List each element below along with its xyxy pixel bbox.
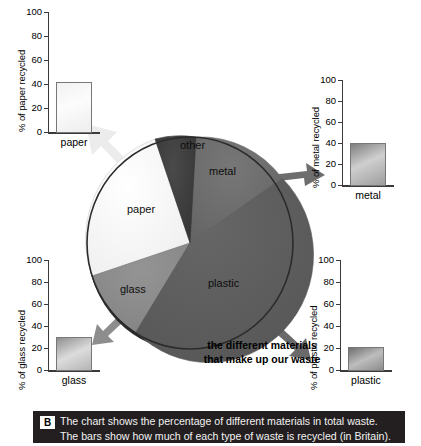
bar-chart-metal-category: metal	[342, 189, 394, 201]
pie-label-metal: metal	[209, 165, 236, 177]
ytick-100: 100	[18, 6, 42, 17]
ytick-80: 80	[312, 95, 336, 106]
ytick-80: 80	[310, 276, 334, 287]
bar-chart-paper-category: paper	[48, 136, 100, 148]
ytick-0: 0	[18, 364, 42, 375]
bar-paper	[56, 82, 92, 133]
figure-root: paper other metal plastic glass the diff…	[0, 0, 421, 446]
ytick-60: 60	[312, 116, 336, 127]
ytick-60: 60	[18, 298, 42, 309]
ytick-100: 100	[310, 254, 334, 265]
ytick-0: 0	[312, 179, 336, 190]
bar-chart-paper-yaxis	[48, 12, 49, 133]
bar-chart-plastic-category: plastic	[340, 374, 392, 386]
caption-text: The chart shows the percentage of differ…	[60, 413, 391, 443]
ytick-20: 20	[18, 102, 42, 113]
bar-chart-glass-category: glass	[48, 374, 100, 386]
bar-chart-paper: % of paper recycled 100 80 60 40 20 0 pa…	[0, 0, 150, 150]
caption-badge: B	[40, 416, 55, 429]
ytick-100: 100	[18, 254, 42, 265]
bar-glass	[56, 337, 92, 371]
bar-chart-metal-yaxis	[342, 80, 343, 186]
ytick-40: 40	[310, 320, 334, 331]
ytick-60: 60	[310, 298, 334, 309]
ytick-80: 80	[18, 276, 42, 287]
ytick-0: 0	[18, 126, 42, 137]
bar-chart-plastic: % of plastic recycled 100 80 60 40 20 0 …	[280, 248, 421, 408]
ytick-60: 60	[18, 54, 42, 65]
ytick-40: 40	[18, 320, 42, 331]
ytick-40: 40	[18, 78, 42, 89]
ytick-0: 0	[310, 364, 334, 375]
bar-chart-plastic-yaxis	[340, 260, 341, 371]
ytick-20: 20	[312, 158, 336, 169]
pie-label-other: other	[180, 139, 205, 151]
bar-plastic	[348, 347, 384, 371]
ytick-80: 80	[18, 30, 42, 41]
caption-line-1: The chart shows the percentage of differ…	[60, 414, 391, 429]
pie-label-paper: paper	[127, 203, 155, 215]
ytick-40: 40	[312, 137, 336, 148]
bar-metal	[350, 143, 386, 186]
ytick-20: 20	[310, 342, 334, 353]
ytick-100: 100	[312, 74, 336, 85]
pie-label-plastic: plastic	[208, 277, 239, 289]
ytick-20: 20	[18, 342, 42, 353]
caption-line-2: The bars show how much of each type of w…	[60, 429, 391, 444]
caption-bar: B The chart shows the percentage of diff…	[33, 411, 405, 443]
bar-chart-metal: % of metal recycled 100 80 60 40 20 0 me…	[280, 68, 421, 198]
bar-chart-glass: % of glass recycled 100 80 60 40 20 0 gl…	[0, 248, 150, 408]
bar-chart-glass-yaxis	[48, 260, 49, 371]
